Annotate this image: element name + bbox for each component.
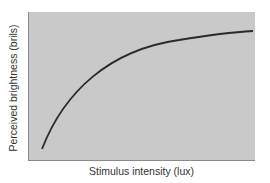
x-axis-label: Stimulus intensity (lux) — [28, 165, 255, 177]
y-axis-label: Perceived brightness (brils) — [7, 13, 19, 163]
curve-svg — [29, 12, 256, 161]
plot-area — [28, 12, 255, 161]
brightness-curve — [42, 31, 253, 149]
